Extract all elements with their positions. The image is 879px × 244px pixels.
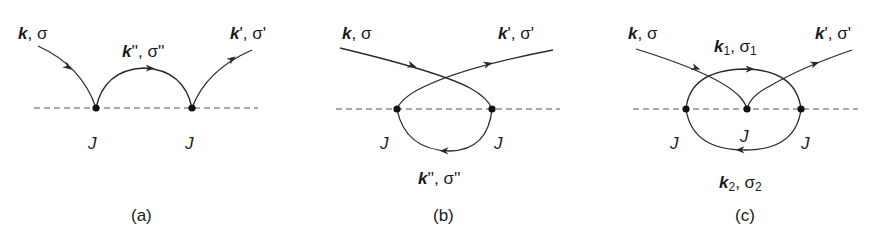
upper-loop-propagator <box>686 69 801 109</box>
panel-b-diagram <box>336 48 560 151</box>
incoming-propagator <box>636 49 747 109</box>
vertex-label-j: J <box>185 135 194 152</box>
vertex-dot <box>188 104 195 111</box>
label-intermediate-b: k'', σ'' <box>418 170 460 187</box>
outgoing-propagator <box>397 50 553 109</box>
label-incoming-a: k, σ <box>18 25 47 42</box>
intermediate-propagator <box>397 109 492 151</box>
label-upper-c: k1, σ1 <box>714 38 757 57</box>
panel-caption-a: (a) <box>131 207 152 224</box>
vertex-label-j: J <box>801 135 810 152</box>
vertex-label-j: J <box>670 135 679 152</box>
vertex-dot <box>743 105 750 112</box>
vertex-dot <box>488 105 495 112</box>
panel-caption-c: (c) <box>735 207 755 224</box>
label-outgoing-c: k', σ' <box>815 25 851 42</box>
outgoing-propagator <box>192 50 252 108</box>
vertex-dot <box>393 105 400 112</box>
incoming-propagator <box>38 46 96 108</box>
vertex-label-j: J <box>380 135 389 152</box>
label-outgoing-b: k', σ' <box>498 25 534 42</box>
vertex-label-j: J <box>88 135 97 152</box>
intermediate-propagator <box>96 68 192 108</box>
label-lower-c: k2, σ2 <box>719 174 762 193</box>
vertex-dot <box>797 105 804 112</box>
vertex-dot <box>92 104 99 111</box>
panel-caption-b: (b) <box>433 207 454 224</box>
incoming-propagator <box>340 48 492 109</box>
label-intermediate-a: k'', σ'' <box>122 43 164 60</box>
label-incoming-b: k, σ <box>342 25 371 42</box>
vertex-label-j: J <box>494 135 503 152</box>
vertex-label-j: J <box>740 128 749 145</box>
label-incoming-c: k, σ <box>628 25 657 42</box>
vertex-dot <box>682 105 689 112</box>
label-outgoing-a: k', σ' <box>230 25 266 42</box>
